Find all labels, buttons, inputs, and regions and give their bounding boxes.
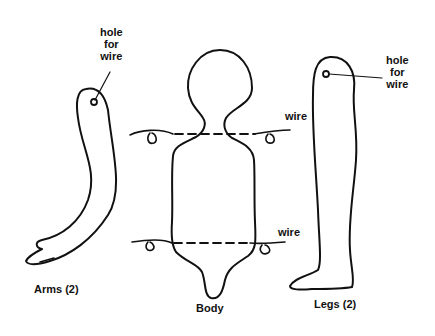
- arm-outline: [26, 89, 116, 264]
- body-label: Body: [196, 302, 224, 314]
- arm-hole-label: hole for wire: [100, 26, 123, 62]
- leg-hole-label: hole for wire: [386, 54, 409, 90]
- wire-top-right: [254, 130, 290, 143]
- leg-hole-leader-line: [329, 74, 382, 78]
- wire-bottom-label: wire: [278, 226, 300, 238]
- wire-top-label: wire: [285, 110, 307, 122]
- leg-outline: [290, 57, 356, 290]
- wire-bottom-right: [250, 242, 285, 254]
- doll-parts-diagram: hole for wire hole for wire wire wire Ar…: [0, 0, 435, 336]
- body-outline: [172, 50, 256, 298]
- wire-bottom-left: [132, 240, 172, 251]
- legs-label: Legs (2): [314, 298, 356, 310]
- wire-top-left: [130, 130, 173, 143]
- leg-wire-hole-icon: [323, 71, 329, 77]
- arms-label: Arms (2): [34, 283, 79, 295]
- arm-wire-hole-icon: [91, 99, 97, 105]
